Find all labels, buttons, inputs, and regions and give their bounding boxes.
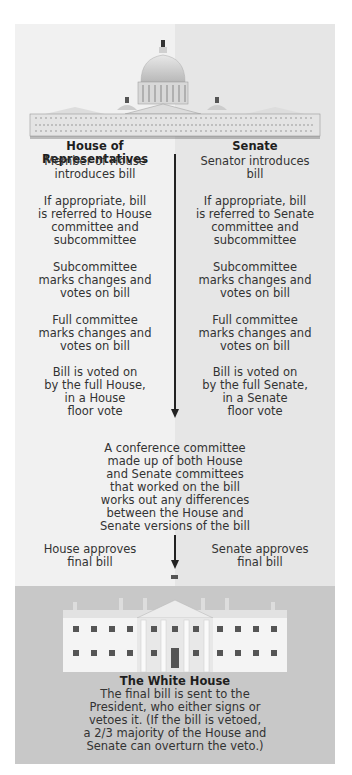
bill-process-diagram: House of Representatives Senate Member o… <box>15 24 335 764</box>
flow-arrow-line-2 <box>174 535 176 562</box>
senate-step-2: If appropriate, bill is referred to Sena… <box>175 195 335 247</box>
house-approves-final: House approves final bill <box>25 543 155 569</box>
house-step-5: Bill is voted on by the full House, in a… <box>15 366 175 418</box>
house-step-2: If appropriate, bill is referred to Hous… <box>15 195 175 247</box>
arrow-down-icon <box>171 560 179 569</box>
white-house-step: The White House The final bill is sent t… <box>15 675 335 753</box>
capitol-building-icon <box>25 30 325 140</box>
house-step-4: Full committee marks changes and votes o… <box>15 314 175 353</box>
senate-step-5: Bill is voted on by the full Senate, in … <box>175 366 335 418</box>
senate-header: Senate <box>175 140 335 153</box>
conference-committee-step: A conference committee made up of both H… <box>75 442 275 533</box>
house-step-1: Member of House introduces bill <box>15 155 175 181</box>
senate-step-1: Senator introduces bill <box>175 155 335 181</box>
senate-approves-final: Senate approves final bill <box>195 543 325 569</box>
white-house-icon <box>63 596 287 672</box>
flow-marker <box>171 575 178 579</box>
senate-step-3: Subcommittee marks changes and votes on … <box>175 261 335 300</box>
house-step-3: Subcommittee marks changes and votes on … <box>15 261 175 300</box>
senate-step-4: Full committee marks changes and votes o… <box>175 314 335 353</box>
